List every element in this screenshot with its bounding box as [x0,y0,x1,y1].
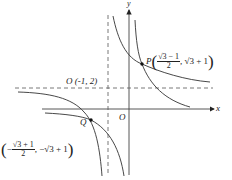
curve-a-upper-branch [113,16,210,82]
point-p-label: P(√3 − 12, √3 + 1) [146,52,214,70]
origin-label: O [119,113,126,122]
point-q-y: −√3 + 1 [39,144,68,154]
point-p-y: √3 + 1 [185,56,209,66]
y-axis-label: y [127,0,131,8]
x-axis-label: x [216,104,220,113]
curve-a-lower-branch [18,92,102,176]
point-q-name: Q [80,118,87,127]
asymptote-center-label: O (-1, 2) [66,77,97,86]
point-q-x: √3 + 12 [12,141,35,158]
point-q [89,118,92,121]
point-p-x: √3 − 12 [157,53,180,70]
point-p [140,62,143,65]
point-q-label: (−√3 + 12, −√3 + 1) [1,140,73,158]
